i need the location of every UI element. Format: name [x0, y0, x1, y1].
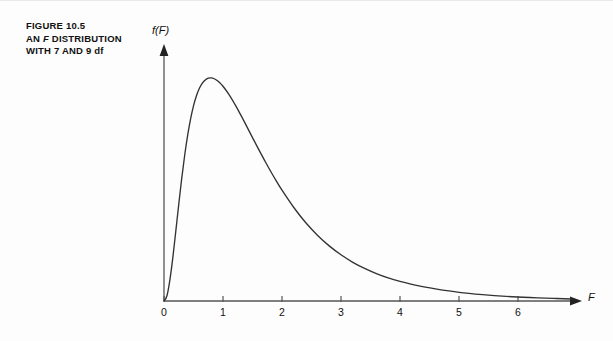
x-axis-tick-label: 5 [449, 306, 469, 318]
x-axis-tick-label: 0 [154, 306, 174, 318]
y-axis-arrow-icon [160, 44, 169, 56]
f-distribution-plot [0, 0, 613, 341]
y-axis-label: f(F) [152, 24, 169, 36]
x-axis-tick-label: 6 [508, 306, 528, 318]
x-axis-label: F [588, 291, 595, 303]
x-axis [164, 297, 582, 306]
x-axis-tick-label: 1 [213, 306, 233, 318]
x-axis-tick-label: 4 [390, 306, 410, 318]
figure-container: FIGURE 10.5 AN F DISTRIBUTION WITH 7 AND… [0, 0, 613, 341]
x-axis-tick-label: 2 [272, 306, 292, 318]
y-axis [160, 44, 169, 301]
f-distribution-curve [164, 78, 571, 301]
x-axis-arrow-icon [570, 297, 582, 306]
x-axis-tick-label: 3 [331, 306, 351, 318]
